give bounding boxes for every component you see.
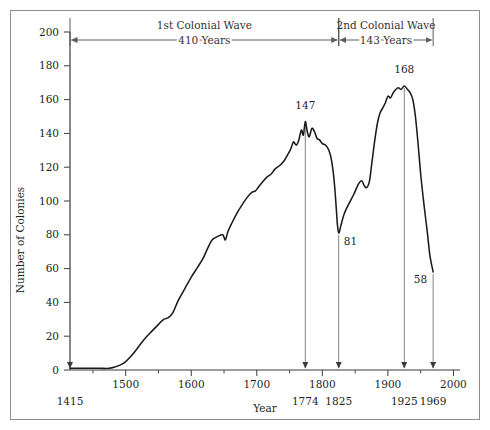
year-marker-label-1825: 1825 (325, 395, 352, 407)
y-tick-label: 120 (39, 161, 59, 173)
chart-figure: 020406080100120140160180200 150016001700… (0, 0, 490, 430)
wave-text-labels: 1st Colonial Wave410 Years2nd Colonial W… (157, 19, 436, 46)
colonies-series-line (70, 86, 433, 368)
year-marker-label-1925: 1925 (391, 395, 418, 407)
value-label-pt-1925: 168 (394, 63, 414, 75)
x-tick-label: 1700 (243, 378, 270, 390)
point-value-labels: 1478116858 (295, 63, 427, 285)
y-tick-label: 0 (52, 364, 59, 376)
value-label-pt-1774: 147 (295, 99, 315, 111)
x-tick-label: 2000 (440, 378, 467, 390)
y-tick-label: 80 (46, 228, 59, 240)
y-tick-label: 160 (39, 93, 59, 105)
y-tick-label: 100 (39, 195, 59, 207)
y-tick-label: 180 (39, 59, 59, 71)
value-label-pt-1825: 81 (344, 235, 357, 247)
year-marker-lines (70, 51, 433, 368)
y-axis-ticks: 020406080100120140160180200 (39, 26, 70, 376)
wave-label-wave2: 2nd Colonial Wave (336, 19, 435, 31)
y-tick-label: 200 (39, 26, 59, 38)
x-axis-ticks: 150016001700180019002000 (93, 370, 467, 390)
wave-duration-wave1: 410 Years (178, 34, 230, 46)
year-marker-label-1774: 1774 (292, 395, 319, 407)
y-tick-label: 40 (46, 296, 59, 308)
year-marker-label-1415: 1415 (57, 395, 84, 407)
wave-duration-wave2: 143 Years (360, 34, 412, 46)
y-tick-label: 20 (46, 330, 59, 342)
wave-label-wave1: 1st Colonial Wave (157, 19, 252, 31)
x-tick-label: 1800 (309, 378, 336, 390)
x-axis-title: Year (252, 402, 277, 414)
y-tick-label: 60 (46, 262, 59, 274)
y-tick-label: 140 (39, 127, 59, 139)
value-label-pt-1969: 58 (414, 273, 427, 285)
x-tick-label: 1500 (112, 378, 139, 390)
colonies-timeline-chart: 020406080100120140160180200 150016001700… (0, 0, 490, 430)
x-tick-label: 1600 (178, 378, 205, 390)
marker-year-labels: 14151774182519251969 (57, 395, 447, 407)
year-marker-label-1969: 1969 (420, 395, 447, 407)
x-tick-label: 1900 (375, 378, 402, 390)
y-axis-title: Number of Colonies (14, 187, 26, 294)
